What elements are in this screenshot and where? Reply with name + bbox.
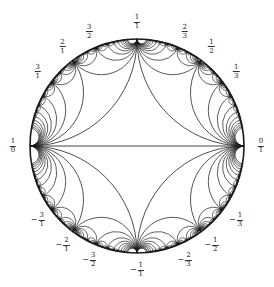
geodesic-arc [60,217,75,231]
numerator: 3 [90,252,96,259]
minus-sign: − [204,241,211,249]
denominator: 2 [86,33,92,40]
label-neg-1-over-2: −12 [204,237,218,253]
fraction: 11 [138,262,144,278]
denominator: 2 [90,261,96,268]
denominator: 1 [35,73,41,80]
label-neg-1-over-1: −11 [130,262,144,278]
geodesic-arcs [30,39,244,253]
label-neg-2-over-1: −21 [56,237,70,253]
numerator: 2 [185,252,191,259]
fraction: 31 [38,212,44,228]
fraction: 11 [134,14,140,30]
label-2-over-3: 23 [181,24,187,40]
label-1-over-0: 10 [10,138,16,154]
label-1-over-3: 13 [233,64,239,80]
fraction: 23 [185,252,191,268]
geodesic-arc [199,60,214,74]
denominator: 3 [233,73,239,80]
label-neg-3-over-1: −31 [31,212,45,228]
numerator: 3 [86,24,92,31]
farey-tessellation-diagram [0,0,274,287]
fraction: 12 [212,237,218,253]
label-0-over-1: 01 [258,138,264,154]
label-3-over-1: 31 [35,64,41,80]
fraction: 12 [208,39,214,55]
denominator: 3 [185,261,191,268]
numerator: 1 [138,262,144,269]
numerator: 3 [38,212,44,219]
numerator: 1 [10,138,16,145]
fraction: 23 [181,24,187,40]
fraction: 13 [237,212,243,228]
minus-sign: − [229,216,236,224]
numerator: 1 [237,212,243,219]
fraction: 32 [86,24,92,40]
minus-sign: − [82,256,89,264]
label-neg-1-over-3: −13 [229,212,243,228]
numerator: 3 [35,64,41,71]
numerator: 2 [63,237,69,244]
numerator: 1 [134,14,140,21]
label-1-over-2: 12 [208,39,214,55]
denominator: 0 [10,147,16,154]
denominator: 2 [212,246,218,253]
numerator: 2 [181,24,187,31]
fraction: 32 [90,252,96,268]
label-2-over-1: 21 [59,39,65,55]
denominator: 1 [38,221,44,228]
denominator: 1 [59,48,65,55]
label-neg-3-over-2: −32 [82,252,96,268]
fraction: 13 [233,64,239,80]
fraction: 10 [10,138,16,154]
minus-sign: − [178,256,185,264]
denominator: 2 [208,48,214,55]
denominator: 1 [258,147,264,154]
label-neg-2-over-3: −23 [178,252,192,268]
label-1-over-1: 11 [134,14,140,30]
minus-sign: − [31,216,38,224]
minus-sign: − [56,241,63,249]
minus-sign: − [130,266,137,274]
numerator: 2 [59,39,65,46]
geodesic-arc [199,217,214,231]
fraction: 31 [35,64,41,80]
denominator: 1 [134,23,140,30]
fraction: 21 [59,39,65,55]
fraction: 01 [258,138,264,154]
denominator: 3 [181,33,187,40]
numerator: 0 [258,138,264,145]
label-3-over-2: 32 [86,24,92,40]
denominator: 3 [237,221,243,228]
denominator: 1 [138,271,144,278]
numerator: 1 [208,39,214,46]
denominator: 1 [63,246,69,253]
geodesic-arc [60,60,75,74]
numerator: 1 [212,237,218,244]
numerator: 1 [233,64,239,71]
fraction: 21 [63,237,69,253]
